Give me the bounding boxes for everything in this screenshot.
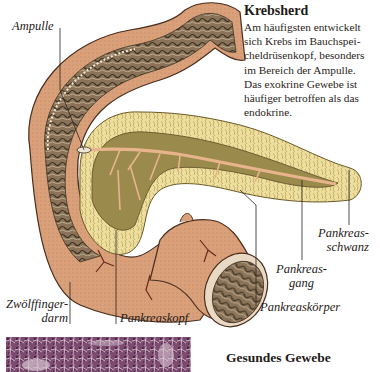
info-line: sich Krebs im Bauchspei- <box>244 34 380 48</box>
info-title: Krebsherd <box>244 2 380 19</box>
label-pankreasgang-line1: Pankreas- <box>276 262 327 276</box>
info-line: Am häufigsten entwickelt <box>244 20 380 34</box>
label-pankreasgang: Pankreas- gang <box>276 262 327 290</box>
label-pankreaskoerper: Pankreaskörper <box>260 300 340 314</box>
info-text: Am häufigsten entwickelt sich Krebs im B… <box>244 20 380 119</box>
info-line: cheldrüsenkopf, besonders <box>244 48 380 62</box>
info-line: im Bereich der Ampulle. <box>244 63 380 77</box>
label-pankreasschwanz-line2: schwanz <box>318 240 369 254</box>
label-pankreasgang-line2: gang <box>276 276 327 290</box>
healthy-tissue-micrograph <box>6 337 191 372</box>
info-line: häufiger betroffen als das <box>244 91 380 105</box>
label-pankreasschwanz-line1: Pankreas- <box>318 226 369 240</box>
label-zwoelffingerdarm-line1: Zwölffinger- <box>6 297 68 311</box>
info-line: endokrine. <box>244 105 380 119</box>
label-ampulle: Ampulle <box>12 19 54 33</box>
label-zwoelffingerdarm: Zwölffinger- darm <box>6 297 68 325</box>
label-zwoelffingerdarm-line2: darm <box>6 311 68 325</box>
label-pankreasschwanz: Pankreas- schwanz <box>318 226 369 254</box>
info-line: Das exokrine Gewebe ist <box>244 77 380 91</box>
tissue-caption: Gesundes Gewebe <box>226 350 331 366</box>
info-box-krebsherd: Krebsherd Am häufigsten entwickelt sich … <box>244 0 380 119</box>
label-pankreaskopf: Pankreaskopf <box>120 311 188 325</box>
